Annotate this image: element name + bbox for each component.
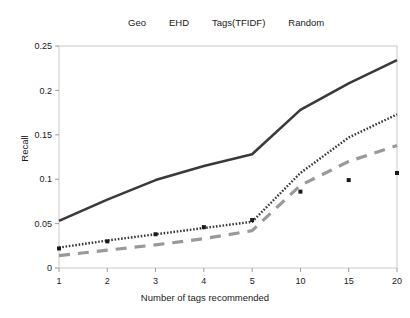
series-line-geo bbox=[59, 60, 397, 221]
data-point-marker bbox=[395, 171, 399, 175]
y-tick-label: 0.1 bbox=[39, 174, 52, 184]
x-tick-label: 1 bbox=[56, 276, 61, 286]
x-tick-label: 15 bbox=[344, 276, 354, 286]
x-tick-label: 20 bbox=[392, 276, 402, 286]
series-line-ehd bbox=[59, 114, 397, 247]
plot-area: 00.050.10.150.20.2512345101520 bbox=[0, 0, 410, 318]
y-tick-label: 0.25 bbox=[34, 41, 52, 51]
y-tick-label: 0.15 bbox=[34, 130, 52, 140]
plot-frame bbox=[59, 46, 397, 268]
x-axis-label: Number of tags recommended bbox=[0, 292, 410, 303]
data-point-marker bbox=[347, 178, 351, 182]
x-tick-label: 10 bbox=[295, 276, 305, 286]
chart-figure: Geo EHD Tags(TFIDF) Random 00.050.10.150… bbox=[0, 0, 410, 318]
data-point-marker bbox=[298, 190, 302, 194]
y-tick-label: 0.2 bbox=[39, 86, 52, 96]
x-tick-label: 2 bbox=[105, 276, 110, 286]
data-point-marker bbox=[154, 232, 158, 236]
series-layer bbox=[57, 60, 399, 255]
y-tick-label: 0 bbox=[47, 263, 52, 273]
series-line-random bbox=[59, 146, 397, 256]
data-point-marker bbox=[57, 246, 61, 250]
y-axis-label: Recall bbox=[19, 119, 30, 179]
data-point-marker bbox=[250, 218, 254, 222]
data-point-marker bbox=[202, 225, 206, 229]
x-tick-label: 5 bbox=[250, 276, 255, 286]
x-tick-label: 3 bbox=[153, 276, 158, 286]
x-tick-label: 4 bbox=[201, 276, 206, 286]
data-point-marker bbox=[105, 239, 109, 243]
y-tick-label: 0.05 bbox=[34, 219, 52, 229]
